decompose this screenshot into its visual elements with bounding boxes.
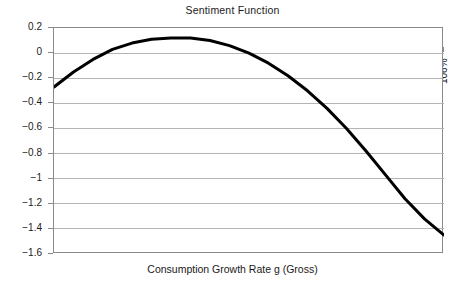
y-tick-mark [48, 77, 53, 78]
y-tick-mark [48, 228, 53, 229]
y-tick-label: 0 [36, 47, 42, 57]
chart-container: Sentiment Function 0.20−0.2−0.4−0.6−0.8−… [0, 0, 465, 287]
y-tick-label: −0.8 [22, 148, 42, 158]
y-tick-label: −1 [31, 173, 42, 183]
y-tick-mark [48, 27, 53, 28]
y-tick-label: −1.6 [22, 248, 42, 258]
y-tick-label: −0.2 [22, 72, 42, 82]
y-tick-label: −1.4 [22, 223, 42, 233]
y-tick-mark [48, 253, 53, 254]
y-tick-label: −0.6 [22, 122, 42, 132]
y-tick-label: −1.2 [22, 198, 42, 208]
y-tick-mark [48, 178, 53, 179]
y-tick-mark [48, 52, 53, 53]
plot-area [53, 27, 443, 253]
y-tick-mark [48, 203, 53, 204]
sentiment-curve [54, 28, 444, 254]
y-tick-mark [48, 127, 53, 128]
y-axis: 0.20−0.2−0.4−0.6−0.8−1−1.2−1.4−1.6 [0, 0, 53, 287]
y-tick-label: 0.2 [28, 22, 42, 32]
y-tick-label: −0.4 [22, 97, 42, 107]
x-axis-title: Consumption Growth Rate g (Gross) [0, 263, 465, 275]
y-tick-mark [48, 102, 53, 103]
y-tick-mark [48, 153, 53, 154]
